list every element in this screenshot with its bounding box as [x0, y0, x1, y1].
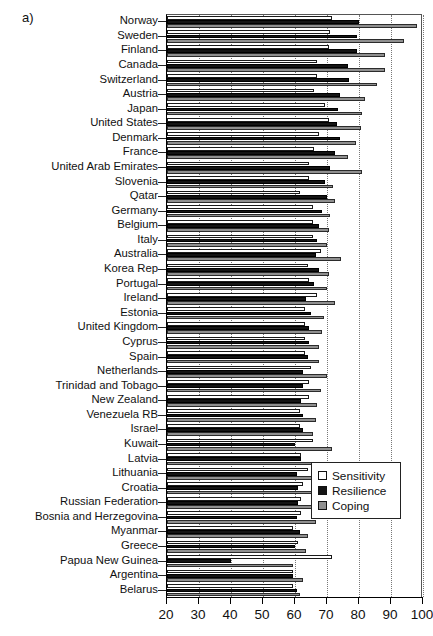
bar-coping	[167, 403, 317, 407]
y-axis-tick	[158, 36, 166, 37]
y-axis-label: Greece	[0, 540, 158, 551]
y-axis-tick	[158, 167, 166, 168]
y-axis-tick	[158, 50, 166, 51]
y-axis-tick	[158, 488, 166, 489]
y-axis-tick	[158, 313, 166, 314]
legend-swatch-resilience-icon	[318, 486, 327, 495]
bar-sensitivity	[167, 30, 330, 34]
x-axis-tick-40	[230, 597, 231, 604]
bar-resilience	[167, 49, 357, 53]
bar-sensitivity	[167, 541, 298, 545]
y-axis-label: Cyprus	[0, 336, 158, 347]
y-axis-label: United States	[0, 117, 158, 128]
bar-coping	[167, 505, 316, 509]
legend-label-coping: Coping	[332, 500, 369, 512]
bar-resilience	[167, 312, 311, 316]
bar-resilience	[167, 501, 298, 505]
x-axis-tick-label: 60	[286, 608, 301, 622]
bar-coping	[167, 228, 329, 232]
bar-group	[167, 175, 421, 190]
bar-group	[167, 73, 421, 88]
bar-sensitivity	[167, 220, 313, 224]
y-axis-label: Estonia	[0, 307, 158, 318]
bar-group	[167, 307, 421, 322]
y-axis-label: Finland	[0, 44, 158, 55]
bar-resilience	[167, 64, 348, 68]
bar-group	[167, 161, 421, 176]
bar-group	[167, 292, 421, 307]
bar-coping	[167, 243, 327, 247]
y-axis-label: Russian Federation	[0, 496, 158, 507]
y-axis-tick	[158, 342, 166, 343]
bar-resilience	[167, 341, 309, 345]
x-axis-tick-50	[262, 597, 263, 604]
bar-resilience	[167, 472, 297, 476]
bar-sensitivity	[167, 584, 293, 588]
legend-label-resilience: Resilience	[332, 485, 386, 497]
y-axis-label: Sweden	[0, 30, 158, 41]
y-axis-tick	[158, 575, 166, 576]
bar-sensitivity	[167, 380, 309, 384]
bar-sensitivity	[167, 45, 329, 49]
y-axis-label: Netherlands	[0, 365, 158, 376]
bar-resilience	[167, 166, 330, 170]
bar-sensitivity	[167, 482, 303, 486]
y-axis-tick	[158, 80, 166, 81]
bar-sensitivity	[167, 555, 332, 559]
bar-resilience	[167, 239, 317, 243]
bar-sensitivity	[167, 147, 314, 151]
y-axis-label: Korea Rep	[0, 263, 158, 274]
bar-group	[167, 321, 421, 336]
y-axis-tick	[158, 21, 166, 22]
y-axis-label: Australia	[0, 248, 158, 259]
bar-sensitivity	[167, 351, 305, 355]
x-axis-tick-60	[294, 597, 295, 604]
bar-group	[167, 423, 421, 438]
bar-sensitivity	[167, 235, 313, 239]
y-axis-tick	[158, 546, 166, 547]
y-axis-label: Papua New Guinea	[0, 555, 158, 566]
legend-item-resilience: Resilience	[318, 483, 394, 498]
y-axis-label: Israel	[0, 423, 158, 434]
y-axis-tick	[158, 531, 166, 532]
x-axis-tick-70	[326, 597, 327, 604]
bar-coping	[167, 432, 313, 436]
bar-sensitivity	[167, 132, 319, 136]
bar-coping	[167, 39, 404, 43]
y-axis-label: Belarus	[0, 584, 158, 595]
y-axis-category-labels: NorwaySwedenFinlandCanadaSwitzerlandAust…	[0, 14, 158, 597]
y-axis-tick	[158, 459, 166, 460]
bar-coping	[167, 287, 327, 291]
legend-swatch-coping-icon	[318, 501, 327, 510]
y-axis-tick	[158, 502, 166, 503]
bar-coping	[167, 185, 333, 189]
bar-sensitivity	[167, 249, 321, 253]
bar-sensitivity	[167, 468, 308, 472]
y-axis-tick	[158, 327, 166, 328]
y-axis-label: Spain	[0, 351, 158, 362]
bar-resilience	[167, 282, 314, 286]
y-axis-tick	[158, 429, 166, 430]
y-axis-tick	[158, 284, 166, 285]
bar-resilience	[167, 457, 301, 461]
bar-coping	[167, 199, 335, 203]
bar-resilience	[167, 443, 295, 447]
y-axis-label: Belgium	[0, 219, 158, 230]
x-axis-tick-20	[166, 597, 167, 604]
legend-item-coping: Coping	[318, 498, 394, 513]
bar-group	[167, 525, 421, 540]
bar-coping	[167, 389, 321, 393]
bar-group	[167, 394, 421, 409]
bar-group	[167, 569, 421, 584]
bar-group	[167, 409, 421, 424]
bar-resilience	[167, 20, 359, 24]
bar-coping	[167, 112, 362, 116]
y-axis-tick	[158, 371, 166, 372]
y-axis-label: Myanmar	[0, 525, 158, 536]
bar-resilience	[167, 516, 297, 520]
bar-coping	[167, 345, 319, 349]
y-axis-tick	[158, 211, 166, 212]
y-axis-tick	[158, 298, 166, 299]
y-axis-tick	[158, 415, 166, 416]
bar-group	[167, 30, 421, 45]
